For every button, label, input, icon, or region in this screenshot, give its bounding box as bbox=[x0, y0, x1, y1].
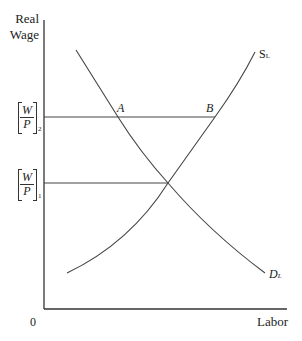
wage-2-numerator: W bbox=[20, 104, 34, 118]
wage-1-tick-label: W P 1 bbox=[18, 169, 42, 201]
demand-curve-label: DL bbox=[269, 268, 282, 280]
x-axis-label: Labor bbox=[257, 315, 288, 328]
supply-label-sub: L bbox=[266, 52, 270, 60]
y-axis-label-line1: Real bbox=[9, 12, 39, 25]
wage-2-subscript: 2 bbox=[38, 125, 42, 133]
y-axis-label-line2: Wage bbox=[9, 28, 39, 41]
demand-curve bbox=[76, 50, 265, 273]
supply-curve bbox=[67, 52, 255, 273]
point-b-label: B bbox=[206, 102, 213, 114]
y-axis-label: Real Wage bbox=[9, 12, 39, 41]
wage-2-tick-label: W P 2 bbox=[18, 102, 42, 134]
point-a-label: A bbox=[117, 102, 124, 114]
supply-curve-label: SL bbox=[259, 48, 270, 60]
demand-label-main: D bbox=[269, 267, 278, 281]
wage-2-denominator: P bbox=[20, 118, 34, 131]
origin-label: 0 bbox=[30, 316, 36, 328]
wage-1-subscript: 1 bbox=[38, 192, 42, 200]
wage-1-denominator: P bbox=[20, 185, 34, 198]
demand-label-sub: L bbox=[278, 272, 282, 280]
supply-label-main: S bbox=[259, 47, 266, 61]
labor-market-diagram bbox=[0, 0, 302, 341]
wage-1-numerator: W bbox=[20, 171, 34, 185]
